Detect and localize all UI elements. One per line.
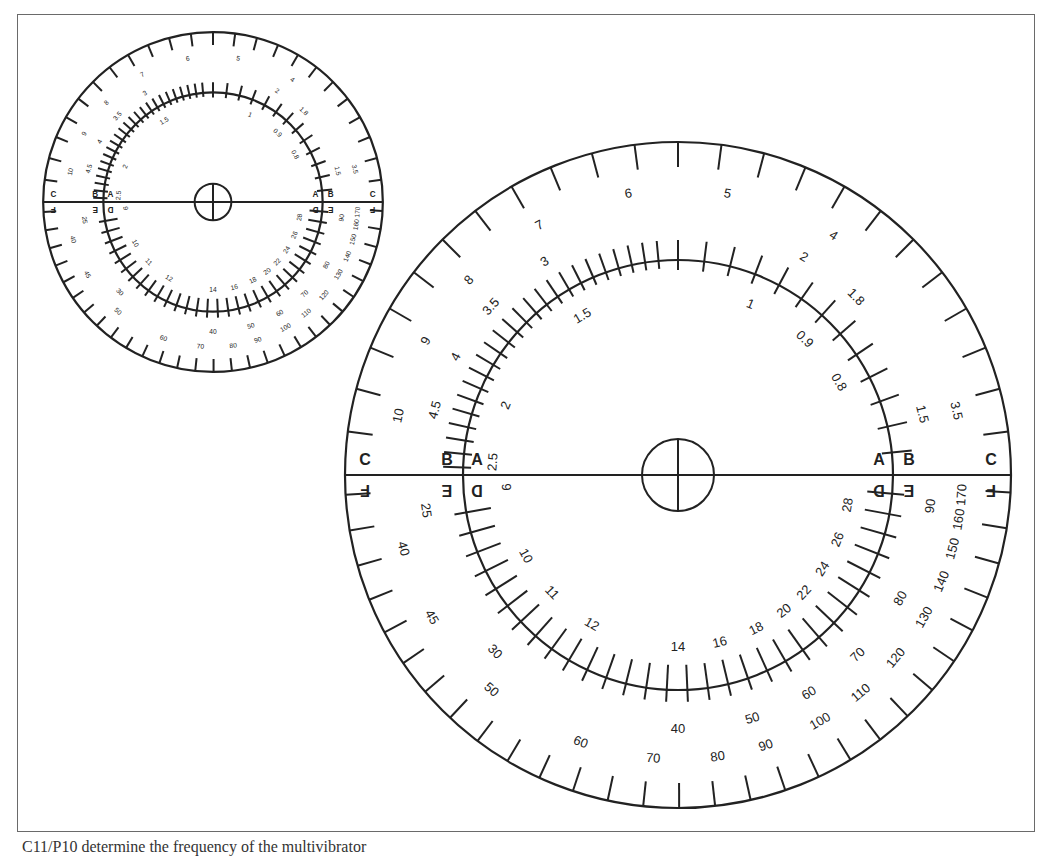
- scale-d-tick: [740, 655, 752, 690]
- scale-letter-d: D: [471, 482, 483, 499]
- scale-d-tick: [99, 219, 118, 222]
- small-dial: 109876543.54.543.5321.81.52.521.510.90.8…: [43, 32, 383, 372]
- scale-f-label: 160: [949, 508, 967, 532]
- scale-f-label: 90: [253, 335, 262, 344]
- scale-letter-a: A: [108, 190, 114, 199]
- scale-c-label: 10: [66, 167, 74, 176]
- scale-d-tick: [226, 298, 229, 317]
- scale-letter-d: D: [107, 205, 113, 214]
- scale-e-label: 60: [799, 683, 819, 703]
- scale-d-label: 11: [144, 257, 154, 267]
- scale-d-label: 22: [272, 256, 282, 266]
- scale-c-tick: [512, 187, 525, 209]
- scale-d-tick: [686, 665, 688, 702]
- scale-b-tick: [453, 409, 480, 417]
- scale-f-label: 45: [422, 607, 442, 627]
- scale-e-label: 60: [275, 308, 285, 318]
- scale-letter-a: A: [873, 451, 885, 468]
- scale-f-tick: [982, 524, 1007, 528]
- scale-c-tick: [169, 38, 172, 50]
- scale-letter-a: A: [471, 451, 483, 468]
- scale-b-tick: [180, 87, 184, 101]
- scale-b-tick: [613, 249, 621, 276]
- scale-b-tick: [642, 243, 646, 271]
- scale-letter-f: F: [360, 482, 370, 499]
- scale-b-label: 2: [797, 248, 811, 265]
- scale-c-tick: [976, 389, 1000, 395]
- scale-f-tick: [294, 336, 301, 347]
- scale-c-label: 3.5: [351, 164, 360, 175]
- scale-f-tick: [333, 303, 343, 311]
- scale-d-label: 9: [122, 206, 129, 210]
- scale-b-tick: [187, 85, 190, 99]
- scale-c-tick: [796, 167, 806, 190]
- scale-a-tick: [311, 161, 325, 166]
- scale-d-label: 24: [812, 558, 832, 578]
- scale-b-tick: [657, 241, 660, 269]
- scale-letter-b: B: [903, 451, 915, 468]
- scale-d-label: 12: [164, 273, 174, 283]
- scale-b-tick: [599, 254, 608, 280]
- scale-c-tick: [983, 432, 1008, 435]
- scale-f-label: 45: [83, 269, 93, 279]
- scale-c-tick: [896, 240, 914, 258]
- scale-c-tick: [45, 180, 58, 182]
- scale-b-tick: [512, 308, 532, 328]
- scale-c-tick: [66, 117, 77, 123]
- scale-c-tick: [324, 82, 333, 91]
- scale-letter-f: F: [986, 482, 996, 499]
- scale-c-tick: [356, 389, 380, 395]
- scale-letter-f: F: [51, 205, 56, 214]
- scale-d-tick: [582, 647, 598, 681]
- scale-f-label: 170: [353, 206, 361, 218]
- scale-d-label: 26: [828, 530, 847, 549]
- scale-d-tick: [865, 510, 901, 517]
- scale-d-tick: [245, 294, 251, 312]
- scale-f-tick: [975, 557, 999, 564]
- scale-f-tick: [385, 621, 407, 633]
- scale-e-label: 30: [485, 641, 506, 662]
- figure-caption: C11/P10 determine the frequency of the m…: [22, 838, 366, 856]
- scale-d-tick: [861, 527, 897, 537]
- scale-f-label: 170: [953, 483, 969, 506]
- scale-b-tick: [449, 423, 476, 429]
- scale-d-tick: [545, 629, 567, 659]
- scale-d-tick: [196, 298, 199, 317]
- scale-d-tick: [704, 663, 709, 700]
- scale-e-label: 40: [671, 721, 685, 736]
- scale-e-label: 80: [890, 588, 910, 608]
- scale-f-label: 70: [196, 342, 204, 350]
- scale-a-label: 1: [744, 295, 757, 312]
- scale-d-label: 28: [839, 496, 856, 513]
- scale-d-tick: [722, 660, 731, 696]
- scale-letter-d: D: [873, 482, 885, 499]
- scale-f-label: 60: [159, 333, 169, 342]
- scale-f-tick: [573, 767, 581, 791]
- scale-d-label: 10: [131, 238, 141, 248]
- scale-a-tick: [315, 175, 330, 178]
- scale-f-tick: [350, 526, 375, 530]
- scale-d-tick: [623, 659, 632, 695]
- scale-e-label: 40: [209, 328, 217, 335]
- scale-e-label: 25: [418, 502, 435, 518]
- scale-d-tick: [303, 238, 321, 245]
- scale-b-label: 4: [95, 138, 103, 145]
- scale-f-tick: [425, 675, 444, 691]
- scale-d-tick: [459, 526, 495, 536]
- scale-c-label: 8: [102, 98, 110, 106]
- scale-b-label: 1.5: [333, 166, 342, 177]
- scale-f-label: 130: [332, 267, 344, 280]
- scale-f-label: 150: [942, 536, 962, 561]
- scale-c-tick: [254, 38, 257, 50]
- scale-f-label: 40: [395, 540, 413, 558]
- scale-a-tick: [878, 422, 907, 429]
- scale-f-label: 50: [113, 306, 123, 316]
- scale-d-tick: [757, 648, 772, 682]
- scale-e-label: 90: [337, 213, 345, 221]
- scale-d-label: 14: [209, 286, 217, 293]
- scale-f-label: 60: [572, 732, 591, 751]
- scale-f-tick: [838, 738, 851, 759]
- scale-b-tick: [95, 183, 109, 185]
- scale-c-label: 7: [139, 70, 146, 78]
- scale-f-tick: [745, 776, 750, 800]
